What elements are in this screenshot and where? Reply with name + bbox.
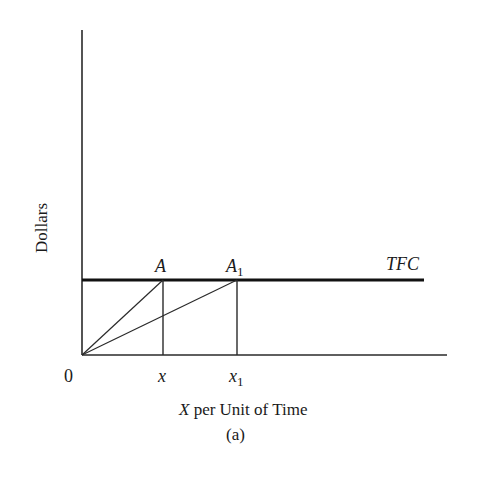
y-axis-label: Dollars <box>32 203 51 253</box>
ray-0a1 <box>82 280 237 355</box>
tfc-diagram: Dollars A A1 TFC 0 x x1 X per Unit of Ti… <box>0 0 479 478</box>
tfc-label: TFC <box>386 254 420 274</box>
ray-0a <box>82 280 163 355</box>
point-a-label: A <box>154 256 167 276</box>
origin-label: 0 <box>64 366 73 386</box>
point-a1-label: A1 <box>225 256 244 279</box>
x-axis-label: X per Unit of Time <box>178 400 307 419</box>
tick-x-label: x <box>157 366 166 386</box>
figure-caption: (a) <box>226 425 245 444</box>
tick-x1-label: x1 <box>228 366 244 389</box>
